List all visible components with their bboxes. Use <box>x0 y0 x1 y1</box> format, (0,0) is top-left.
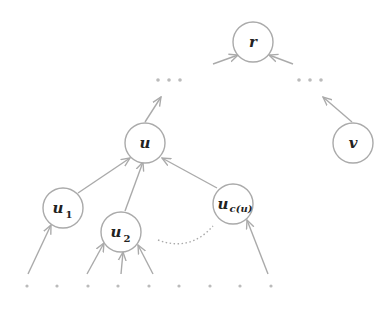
node-u1-subscript: 1 <box>66 209 73 220</box>
edge-u1-to-u <box>78 158 130 193</box>
edge-leaf-to-uc <box>247 220 268 274</box>
edge-v-to-right-ellipsis <box>323 97 352 122</box>
dotted-arc <box>158 226 213 244</box>
edge-u2-to-u <box>125 162 143 211</box>
edge-left-ellipsis-to-r <box>213 55 238 64</box>
node-v: v <box>333 123 373 163</box>
node-u-label: u <box>140 134 151 152</box>
node-u1-label: u <box>53 199 64 217</box>
node-u1: u 1 <box>43 188 83 228</box>
node-u2-subscript: 2 <box>124 233 131 244</box>
edge-u-to-left-ellipsis <box>145 97 161 122</box>
left-ellipsis <box>156 78 182 82</box>
edge-uc-to-u <box>162 158 217 188</box>
right-ellipsis <box>297 78 323 82</box>
edge-leaf-to-u2-c <box>138 245 153 274</box>
node-r: r <box>233 22 273 62</box>
tree-diagram: r u v u 1 u 2 u c(u) <box>0 0 392 309</box>
edge-leaf-to-u2-b <box>121 252 123 274</box>
node-uc: u c(u) <box>213 184 253 224</box>
leaf-dots <box>25 284 272 287</box>
edge-right-ellipsis-to-r <box>269 55 293 64</box>
node-uc-label: u <box>218 195 229 213</box>
node-u2-label: u <box>111 223 122 241</box>
node-v-label: v <box>349 134 358 152</box>
node-r-label: r <box>249 33 258 51</box>
edge-leaf-to-u2-a <box>87 243 104 274</box>
node-u2: u 2 <box>101 212 141 252</box>
node-uc-subscript: c(u) <box>230 203 253 214</box>
node-u: u <box>125 123 165 163</box>
edge-leaf-to-u1 <box>28 225 51 274</box>
